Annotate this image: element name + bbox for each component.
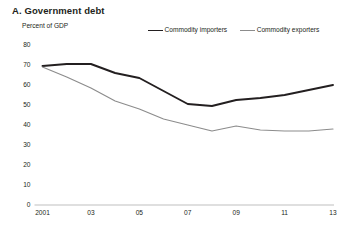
x-axis-tick-label: 07: [168, 210, 208, 217]
x-axis-tick-label: 05: [119, 210, 159, 217]
chart-svg: [0, 0, 346, 226]
x-axis-tick-label: 11: [265, 210, 305, 217]
x-axis-tick-label: 13: [313, 210, 346, 217]
y-axis-tick-label: 10: [9, 182, 31, 189]
series-line-commodity-importers: [43, 64, 334, 106]
y-axis-tick-label: 20: [9, 162, 31, 169]
y-axis-tick-label: 80: [9, 42, 31, 49]
x-axis-tick-label: 09: [216, 210, 256, 217]
chart-panel: A. Government debt Percent of GDP Commod…: [0, 0, 346, 226]
y-axis-tick-label: 0: [9, 202, 31, 209]
y-axis-tick-label: 50: [9, 102, 31, 109]
x-axis-tick-label: 03: [71, 210, 111, 217]
x-axis-tick-label: 2001: [23, 210, 63, 217]
series-line-commodity-exporters: [43, 67, 334, 131]
y-axis-tick-label: 70: [9, 62, 31, 69]
plot-area: 807060504030201002001030507091113: [0, 0, 346, 226]
y-axis-tick-label: 30: [9, 142, 31, 149]
y-axis-tick-label: 40: [9, 122, 31, 129]
y-axis-tick-label: 60: [9, 82, 31, 89]
